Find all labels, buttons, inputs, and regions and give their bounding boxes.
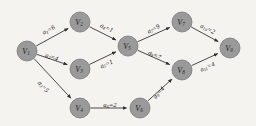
edge-weight-label: a3=5 (36, 79, 51, 95)
node-circle[interactable] (70, 12, 90, 32)
edge-weight-label: a6=2 (103, 101, 117, 109)
graph-node-v9[interactable]: V9 (220, 38, 240, 58)
graph-node-v3[interactable]: V3 (70, 59, 90, 79)
graph-node-v8[interactable]: V8 (172, 60, 192, 80)
graph-edge (34, 59, 71, 98)
node-circle[interactable] (70, 98, 90, 118)
graph-node-v5[interactable]: V5 (118, 36, 138, 56)
node-circle[interactable] (130, 98, 150, 118)
graph-edge (89, 52, 115, 65)
node-circle[interactable] (17, 41, 37, 61)
edge-weight-label: a2=4 (44, 51, 60, 63)
graph-node-v2[interactable]: V2 (70, 12, 90, 32)
node-circle[interactable] (118, 36, 138, 56)
nodes-layer: V1V2V3V4V5V6V7V8V9 (17, 12, 240, 118)
graph-node-v6[interactable]: V6 (130, 98, 150, 118)
graph-node-v4[interactable]: V4 (70, 98, 90, 118)
graph-edge (89, 27, 116, 40)
edge-weight-label: a7=9 (145, 22, 161, 35)
graph-edge (138, 50, 170, 64)
edge-weight-label: a8=7 (147, 48, 163, 61)
node-circle[interactable] (172, 12, 192, 32)
graph-canvas: V1V2V3V4V5V6V7V8V9 a1=6a2=4a3=5a4=1a5=1a… (0, 0, 256, 126)
graph-edge (148, 79, 172, 101)
edge-weight-label: a1=6 (40, 22, 56, 36)
graph-edge (138, 27, 170, 41)
graph-edge (37, 54, 67, 64)
edge-weight-label: a10=2 (199, 21, 217, 35)
graph-node-v1[interactable]: V1 (17, 41, 37, 61)
graph-edge (36, 28, 68, 46)
node-circle[interactable] (220, 38, 240, 58)
graph-edge (192, 54, 218, 66)
edge-weight-label: a4=1 (99, 21, 114, 34)
node-circle[interactable] (172, 60, 192, 80)
graph-diagram: V1V2V3V4V5V6V7V8V9 a1=6a2=4a3=5a4=1a5=1a… (0, 0, 256, 126)
graph-edge (191, 27, 218, 42)
node-circle[interactable] (70, 59, 90, 79)
graph-node-v7[interactable]: V7 (172, 12, 192, 32)
